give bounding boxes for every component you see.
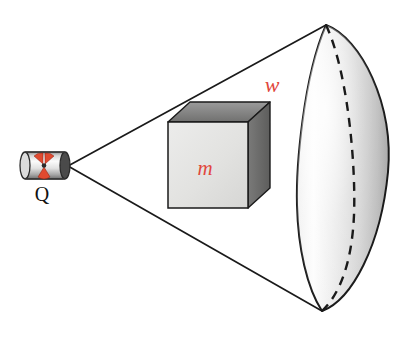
source-label-Q: Q	[35, 183, 50, 205]
absorber-label-m: m	[197, 156, 212, 180]
physics-diagram-canvas: Q m w	[0, 0, 406, 337]
spherical-cap-detector	[297, 25, 389, 311]
trefoil-center-dot	[42, 163, 47, 168]
absorber-cube	[168, 102, 270, 208]
cap-highlight	[297, 25, 389, 311]
radiation-cone-scene: Q m w	[0, 0, 406, 337]
radioactive-source-capsule	[20, 152, 70, 179]
capsule-left-end	[20, 152, 30, 179]
detector-label-w: w	[265, 72, 280, 97]
capsule-emission-port	[60, 152, 70, 179]
